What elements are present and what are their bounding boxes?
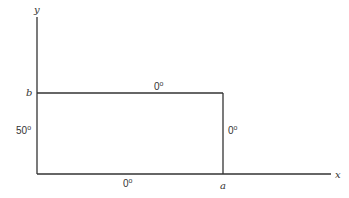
bottom-boundary-value: 0o (123, 177, 133, 189)
y-axis-label: y (33, 4, 40, 15)
x-axis-label: x (335, 169, 341, 180)
left-boundary-value: 50o (16, 124, 31, 136)
point-a-label: a (220, 180, 226, 191)
rectangle-boundary-diagram: y x b a 0o 50o 0o 0o (0, 0, 349, 198)
top-boundary-value: 0o (154, 80, 164, 92)
point-b-label: b (26, 87, 32, 98)
right-boundary-value: 0o (228, 124, 238, 136)
